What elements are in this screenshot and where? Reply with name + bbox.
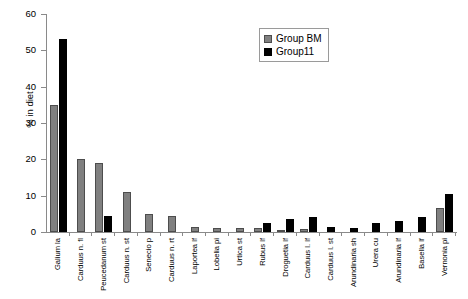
x-label-cell: Peucedanum st xyxy=(92,238,115,299)
x-tick-label: Laportea lf xyxy=(191,238,199,274)
legend-item-label: Group BM xyxy=(276,33,322,44)
bar-group-bm xyxy=(145,214,153,232)
x-tick-mark xyxy=(320,232,343,236)
x-tick-mark xyxy=(297,232,320,236)
x-tick-mark xyxy=(229,232,252,236)
x-tick-label: Arundinaria lf xyxy=(395,238,403,283)
x-tick-label: Basella lf xyxy=(418,238,426,269)
bar-group xyxy=(411,14,434,232)
x-tick-label: Carduus l. st xyxy=(327,238,335,281)
y-tick-label: 50 xyxy=(10,45,36,54)
x-tick-mark xyxy=(47,232,70,236)
bar-group11 xyxy=(104,216,112,232)
x-label-cell: Lobelia pi xyxy=(206,238,229,299)
x-label-cell: Carduus l. lf xyxy=(297,238,320,299)
y-axis-title-text: % in diet xyxy=(24,65,35,155)
x-label-cell: Urtica st xyxy=(229,238,252,299)
x-tick-label: Urera cu xyxy=(372,238,380,267)
x-label-cell: Senecio p xyxy=(138,238,161,299)
x-tick-label: Carduus n. fl xyxy=(77,238,85,281)
bar-group11 xyxy=(418,217,426,232)
x-label-cell: Droguetia lf xyxy=(274,238,297,299)
bar-group xyxy=(115,14,138,232)
bar-chart: 0102030405060 % in diet Galium laCarduus… xyxy=(0,0,468,299)
x-tick-label: Vernonia pi xyxy=(441,238,449,276)
x-label-cell: Carduus l. st xyxy=(320,238,343,299)
bar-series-container xyxy=(47,14,456,232)
x-tick-mark xyxy=(70,232,93,236)
x-tick-mark xyxy=(251,232,274,236)
bar-group11 xyxy=(445,194,453,232)
x-tick-mark xyxy=(92,232,115,236)
x-label-cell: Galium la xyxy=(47,238,70,299)
x-label-cell: Arundinaria sh xyxy=(342,238,365,299)
legend-item-label: Group11 xyxy=(276,46,314,57)
bar-group xyxy=(183,14,206,232)
bar-group xyxy=(92,14,115,232)
bar-group-bm xyxy=(50,105,58,232)
y-tick-label: 20 xyxy=(10,154,36,163)
x-tick-mark xyxy=(183,232,206,236)
x-label-cell: Carduus n. rt xyxy=(161,238,184,299)
x-tick-label: Arundinaria sh xyxy=(350,238,358,287)
black-swatch-icon xyxy=(264,48,272,56)
bar-group-bm xyxy=(123,192,131,232)
bar-group xyxy=(138,14,161,232)
x-tick-mark xyxy=(206,232,229,236)
x-axis-ticks xyxy=(47,232,456,236)
x-label-cell: Basella lf xyxy=(411,238,434,299)
chart-legend: Group BMGroup11 xyxy=(259,28,329,62)
bar-group11 xyxy=(395,221,403,232)
bar-group11 xyxy=(263,223,271,232)
gray-swatch-icon xyxy=(264,35,272,43)
x-tick-label: Rubus lf xyxy=(259,238,267,266)
x-label-cell: Carduus n. fl xyxy=(70,238,93,299)
bar-group xyxy=(433,14,456,232)
bar-group-bm xyxy=(95,163,103,232)
x-tick-label: Galium la xyxy=(54,238,62,270)
bar-group xyxy=(70,14,93,232)
x-axis-labels: Galium laCarduus n. flPeucedanum stCardu… xyxy=(47,238,456,299)
bar-group xyxy=(206,14,229,232)
x-tick-mark xyxy=(342,232,365,236)
x-label-cell: Arundinaria lf xyxy=(388,238,411,299)
x-label-cell: Rubus lf xyxy=(251,238,274,299)
x-tick-label: Peucedanum st xyxy=(100,238,108,291)
x-tick-mark xyxy=(274,232,297,236)
x-tick-mark xyxy=(161,232,184,236)
x-tick-label: Senecio p xyxy=(145,238,153,272)
bar-group-bm xyxy=(436,208,444,232)
bar-group11 xyxy=(286,219,294,232)
bar-group11 xyxy=(309,217,317,232)
x-label-cell: Urera cu xyxy=(365,238,388,299)
bar-group-bm xyxy=(77,159,85,232)
bar-group11 xyxy=(372,223,380,232)
bar-group xyxy=(365,14,388,232)
bar-group xyxy=(161,14,184,232)
y-tick-label: 10 xyxy=(10,191,36,200)
x-label-cell: Laportea lf xyxy=(183,238,206,299)
y-tick-label: 0 xyxy=(10,227,36,236)
x-tick-mark xyxy=(433,232,456,236)
legend-item: Group BM xyxy=(264,32,322,45)
bar-group xyxy=(388,14,411,232)
y-tick-label: 60 xyxy=(10,9,36,18)
x-label-cell: Vernonia pi xyxy=(433,238,456,299)
x-tick-label: Urtica st xyxy=(236,238,244,266)
bar-group11 xyxy=(59,39,67,232)
x-tick-label: Carduus n. st xyxy=(123,238,131,283)
x-tick-mark xyxy=(115,232,138,236)
bar-group xyxy=(342,14,365,232)
x-tick-mark xyxy=(411,232,434,236)
x-tick-mark xyxy=(388,232,411,236)
x-tick-label: Lobelia pi xyxy=(213,238,221,271)
bar-group-bm xyxy=(168,216,176,232)
x-label-cell: Carduus n. st xyxy=(115,238,138,299)
x-tick-mark xyxy=(138,232,161,236)
x-tick-label: Carduus n. rt xyxy=(168,238,176,282)
bar-group xyxy=(47,14,70,232)
bar-group xyxy=(229,14,252,232)
x-tick-label: Carduus l. lf xyxy=(304,238,312,279)
legend-item: Group11 xyxy=(264,45,322,58)
x-tick-label: Droguetia lf xyxy=(282,238,290,277)
